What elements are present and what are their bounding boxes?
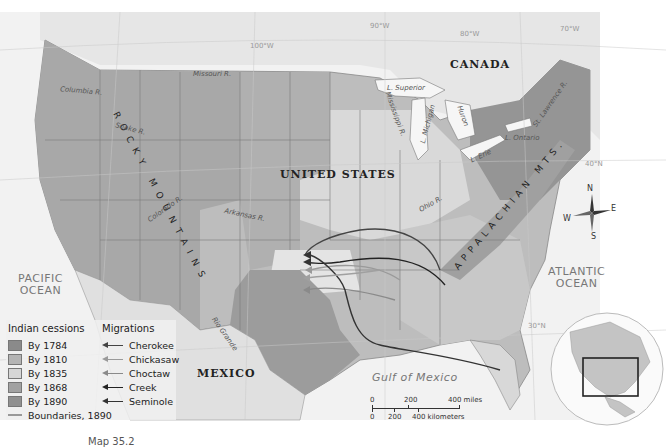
scale-miles-0: 0 xyxy=(370,396,374,404)
legend-cession-1868: By 1868 xyxy=(8,381,67,393)
legend-migration-choctaw: Choctaw xyxy=(102,367,170,379)
scale-km-400: 400 kilometers xyxy=(412,413,465,421)
compass-rose: N S E W xyxy=(567,188,617,238)
migration-label: Seminole xyxy=(129,396,173,407)
locator-globe xyxy=(550,312,665,427)
swatch-1784 xyxy=(8,340,22,351)
label-mexico: MEXICO xyxy=(197,367,256,380)
label-lat-30: 30°N xyxy=(528,322,546,330)
label-lon-70: 70°W xyxy=(560,25,579,33)
legend-migration-seminole: Seminole xyxy=(102,395,173,407)
cession-label: By 1868 xyxy=(28,382,67,393)
label-missouri-river: Missouri R. xyxy=(193,70,231,78)
compass-n: N xyxy=(587,184,593,193)
scale-tick xyxy=(418,408,419,412)
cession-label: By 1835 xyxy=(28,368,67,379)
label-lake-superior: L. Superior xyxy=(387,84,425,92)
legend-migration-chickasaw: Chickasaw xyxy=(102,353,179,365)
compass-w: W xyxy=(563,214,571,223)
legend-migrations-title: Migrations xyxy=(102,323,154,334)
cession-label: By 1890 xyxy=(28,396,67,407)
scale-line xyxy=(372,408,460,409)
cession-label: By 1784 xyxy=(28,340,67,351)
compass-s: S xyxy=(591,232,596,241)
legend-migration-creek: Creek xyxy=(102,381,157,393)
migration-label: Cherokee xyxy=(129,340,174,351)
cession-label: By 1810 xyxy=(28,354,67,365)
label-atlantic-ocean: ATLANTIC OCEAN xyxy=(548,266,605,290)
atlantic-line-2: OCEAN xyxy=(548,278,605,290)
label-lon-100: 100°W xyxy=(250,42,274,50)
swatch-1810 xyxy=(8,354,22,365)
label-lake-ontario: L. Ontario xyxy=(505,134,539,142)
scale-bar: 0 200 400 miles 0 200 400 kilometers xyxy=(370,396,530,426)
swatch-1890 xyxy=(8,396,22,407)
pacific-line-2: OCEAN xyxy=(18,285,63,297)
legend-migration-cherokee: Cherokee xyxy=(102,339,174,351)
scale-miles-200: 200 xyxy=(404,396,417,404)
migration-label: Chickasaw xyxy=(129,354,179,365)
scale-km-200: 200 xyxy=(388,413,401,421)
swatch-1835 xyxy=(8,368,22,379)
arrow-left-icon xyxy=(102,354,124,365)
legend-cessions-title: Indian cessions xyxy=(8,323,85,334)
boundary-line-icon xyxy=(8,414,22,416)
scale-tick xyxy=(372,405,373,412)
legend-cession-1784: By 1784 xyxy=(8,339,67,351)
swatch-1868 xyxy=(8,382,22,393)
scale-km-0: 0 xyxy=(370,413,374,421)
migration-label: Choctaw xyxy=(129,368,170,379)
label-pacific-ocean: PACIFIC OCEAN xyxy=(18,273,63,297)
label-lon-80: 80°W xyxy=(460,30,479,38)
scale-miles-400: 400 miles xyxy=(448,396,482,404)
legend-boundaries: Boundaries, 1890 xyxy=(8,409,112,421)
label-united-states: UNITED STATES xyxy=(280,168,396,181)
legend: Indian cessions Migrations By 1784 By 18… xyxy=(6,320,176,420)
arrow-left-icon xyxy=(102,340,124,351)
arrow-left-icon xyxy=(102,368,124,379)
arrow-left-icon xyxy=(102,396,124,407)
compass-e: E xyxy=(611,204,616,213)
label-canada: CANADA xyxy=(450,58,510,71)
scale-tick xyxy=(459,405,460,409)
legend-cession-1890: By 1890 xyxy=(8,395,67,407)
boundaries-label: Boundaries, 1890 xyxy=(28,410,112,421)
legend-cession-1835: By 1835 xyxy=(8,367,67,379)
arrow-left-icon xyxy=(102,382,124,393)
label-lon-90: 90°W xyxy=(370,22,389,30)
migration-label: Creek xyxy=(129,382,157,393)
label-gulf-of-mexico: Gulf of Mexico xyxy=(372,372,458,384)
scale-tick xyxy=(408,405,409,409)
scale-tick xyxy=(394,408,395,412)
label-lat-40: 40°N xyxy=(585,160,603,168)
map-caption: Map 35.2 xyxy=(88,436,135,447)
legend-cession-1810: By 1810 xyxy=(8,353,67,365)
compass-star-icon xyxy=(567,188,617,238)
